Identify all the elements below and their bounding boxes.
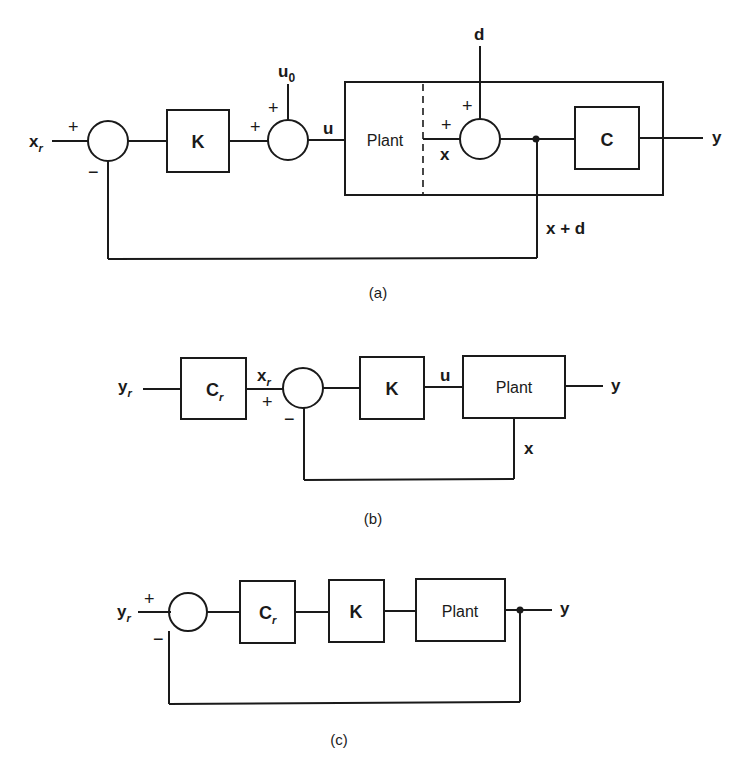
caption-c: (c) (330, 731, 348, 748)
sum2-plus-top: + (268, 98, 279, 118)
summing-junction-2 (268, 120, 308, 160)
sum1-minus: − (88, 162, 99, 182)
disturbance-label: d (474, 25, 484, 44)
input-yr-label: yr (118, 377, 132, 399)
block-diagrams: xr + − K + + u0 u Plant + x + d C (0, 0, 756, 766)
sum-b-plus: + (262, 392, 273, 412)
prefilter-block-cr-c-label: Cr (259, 603, 277, 626)
sum-c-minus: − (153, 629, 164, 649)
sum1-plus: + (68, 117, 79, 137)
output-block-c-label: C (601, 130, 614, 150)
feedback-b-horizontal (304, 479, 514, 480)
caption-b: (b) (364, 510, 382, 527)
sum3-plus-left: + (441, 115, 452, 135)
diagram-c: yr + − Cr K Plant y (c) (117, 579, 570, 748)
feedback-c-horizontal (169, 702, 520, 704)
plant-block-c-label: Plant (442, 603, 479, 620)
summing-junction-c (169, 593, 207, 631)
gain-block-k-c-label: K (350, 602, 363, 622)
sum-c-plus: + (144, 589, 155, 609)
feedback-wire-horizontal (108, 258, 537, 259)
plant-label: Plant (367, 132, 404, 149)
output-y-label-c: y (560, 599, 570, 618)
output-y-label: y (712, 128, 722, 147)
sum2-plus-left: + (250, 117, 261, 137)
summing-junction-3 (460, 119, 500, 159)
gain-block-k-b-label: K (386, 379, 399, 399)
diagram-a: xr + − K + + u0 u Plant + x + d C (29, 25, 722, 301)
summing-junction-b (283, 368, 323, 408)
feedback-label-x: x (524, 439, 534, 458)
x-label: x (440, 145, 450, 164)
input-yr-label-c: yr (117, 602, 131, 624)
caption-a: (a) (369, 284, 387, 301)
feedback-label-x-plus-d: x + d (546, 219, 585, 238)
input-xr-label: xr (29, 132, 43, 154)
u-label: u (323, 119, 333, 138)
diagram-b: yr Cr xr + − K u Plant y x (b) (118, 356, 621, 527)
output-y-label-b: y (611, 376, 621, 395)
gain-block-k-label: K (192, 132, 205, 152)
u0-label: u0 (278, 62, 295, 85)
u-label-b: u (440, 366, 450, 385)
prefilter-block-cr-label: Cr (206, 380, 224, 403)
sum-b-minus: − (284, 409, 295, 429)
plant-block-b-label: Plant (496, 379, 533, 396)
xr-label: xr (257, 366, 271, 388)
summing-junction-1 (88, 121, 128, 161)
sum3-plus-top: + (462, 96, 473, 116)
